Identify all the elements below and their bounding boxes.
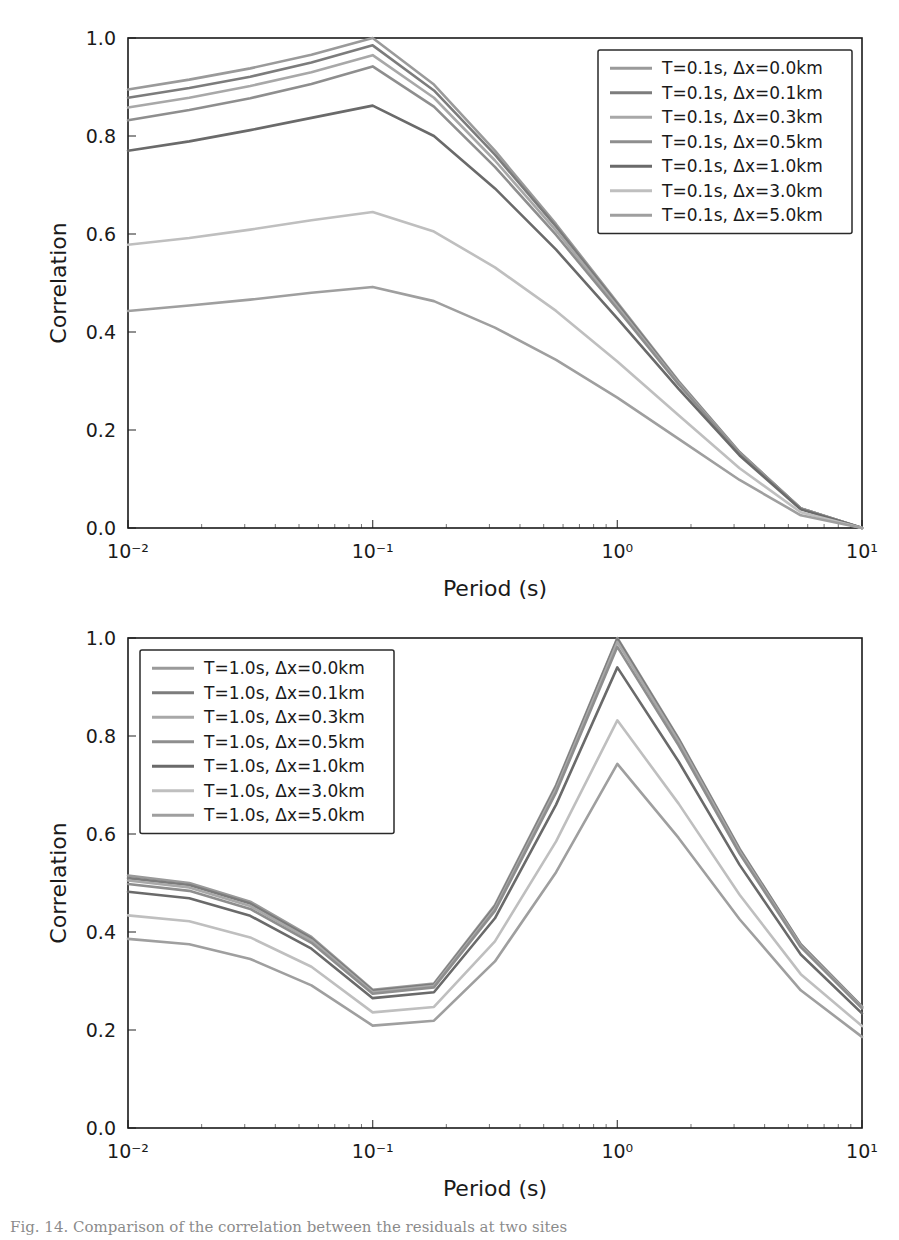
x-tick-label: 10⁰ — [601, 540, 633, 562]
chart-svg-top: 10⁻²10⁻¹10⁰10¹0.00.20.40.60.81.0Period (… — [0, 0, 899, 600]
legend-entry-label: T=1.0s, Δx=3.0km — [203, 781, 365, 801]
x-tick-label: 10⁻¹ — [352, 540, 394, 562]
y-tick-label: 0.4 — [86, 321, 116, 343]
y-tick-label: 0.0 — [86, 517, 116, 539]
chart-svg-bottom: 10⁻²10⁻¹10⁰10¹0.00.20.40.60.81.0Period (… — [0, 600, 899, 1200]
x-tick-label: 10⁻¹ — [352, 1140, 394, 1162]
y-tick-label: 0.4 — [86, 921, 116, 943]
legend-entry-label: T=0.1s, Δx=0.0km — [661, 58, 823, 78]
x-tick-label: 10¹ — [846, 1140, 878, 1162]
x-tick-label: 10⁰ — [601, 1140, 633, 1162]
x-tick-label: 10⁻² — [107, 540, 149, 562]
legend-entry-label: T=0.1s, Δx=5.0km — [661, 205, 823, 225]
y-axis-title: Correlation — [46, 222, 71, 343]
x-axis-title: Period (s) — [443, 576, 547, 600]
figure-caption: Fig. 14. Comparison of the correlation b… — [10, 1218, 567, 1236]
figure-caption-strip: Fig. 14. Comparison of the correlation b… — [0, 1204, 899, 1240]
x-tick-label: 10¹ — [846, 540, 878, 562]
legend-entry-label: T=1.0s, Δx=0.0km — [203, 658, 365, 678]
y-tick-label: 0.6 — [86, 223, 116, 245]
y-tick-label: 0.6 — [86, 823, 116, 845]
y-tick-label: 0.8 — [86, 125, 116, 147]
y-axis-title: Correlation — [46, 822, 71, 943]
legend-entry-label: T=1.0s, Δx=5.0km — [203, 805, 365, 825]
y-tick-label: 1.0 — [86, 27, 116, 49]
legend-entry-label: T=1.0s, Δx=1.0km — [203, 756, 365, 776]
legend-entry-label: T=0.1s, Δx=3.0km — [661, 181, 823, 201]
legend-entry-label: T=1.0s, Δx=0.1km — [203, 683, 365, 703]
y-tick-label: 0.0 — [86, 1117, 116, 1139]
y-tick-label: 0.2 — [86, 419, 116, 441]
legend-entry-label: T=0.1s, Δx=0.1km — [661, 83, 823, 103]
legend-entry-label: T=0.1s, Δx=1.0km — [661, 156, 823, 176]
legend-entry-label: T=0.1s, Δx=0.3km — [661, 107, 823, 127]
legend-entry-label: T=1.0s, Δx=0.3km — [203, 707, 365, 727]
x-axis-title: Period (s) — [443, 1176, 547, 1200]
y-tick-label: 0.8 — [86, 725, 116, 747]
x-tick-label: 10⁻² — [107, 1140, 149, 1162]
chart-panel-bottom: 10⁻²10⁻¹10⁰10¹0.00.20.40.60.81.0Period (… — [0, 600, 899, 1200]
legend-entry-label: T=1.0s, Δx=0.5km — [203, 732, 365, 752]
y-tick-label: 1.0 — [86, 627, 116, 649]
figure-root: 10⁻²10⁻¹10⁰10¹0.00.20.40.60.81.0Period (… — [0, 0, 899, 1240]
legend-entry-label: T=0.1s, Δx=0.5km — [661, 132, 823, 152]
chart-panel-top: 10⁻²10⁻¹10⁰10¹0.00.20.40.60.81.0Period (… — [0, 0, 899, 600]
y-tick-label: 0.2 — [86, 1019, 116, 1041]
